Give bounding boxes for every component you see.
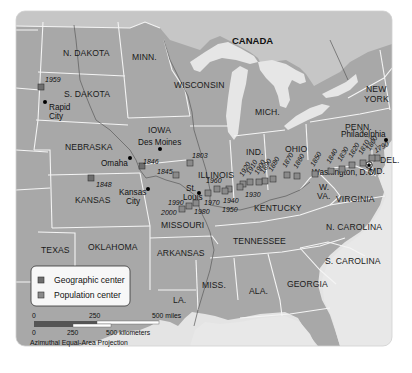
state-label-del: DEL. <box>380 155 400 165</box>
state-label-ind: IND. <box>246 147 264 157</box>
year-1940: 1940 <box>223 197 239 204</box>
state-label-texas: TEXAS <box>41 245 70 255</box>
state-label-sc: S. CAROLINA <box>325 256 381 266</box>
city-label-kansas-city-1: Kansas <box>119 188 146 197</box>
state-label-mo: MISSOURI <box>161 220 204 230</box>
city-dot-rapid-city <box>43 100 47 104</box>
city-label-philadelphia: Philadelphia <box>341 130 386 139</box>
scale-km-500: 500 kilometers <box>106 329 151 336</box>
scale-km-dark <box>34 324 73 327</box>
us-centers-map: CANADA N. DAKOTA S. DAKOTA MINN. WISCONS… <box>0 0 412 373</box>
pop-marker-2000 <box>179 206 185 212</box>
pop-marker-1900 <box>256 179 262 185</box>
scale-km-250: 250 <box>67 329 79 336</box>
state-label-la: LA. <box>173 295 186 305</box>
pop-marker-1845 <box>173 172 179 178</box>
pop-marker-1930 <box>237 184 243 190</box>
pop-marker-1803 <box>187 160 193 166</box>
scale-miles-light <box>97 321 159 324</box>
city-label-rapid-city-1: Rapid <box>49 103 71 112</box>
state-label-nd: N. DAKOTA <box>63 48 110 58</box>
legend-geographic-swatch <box>38 277 44 283</box>
legend: Geographic center Population center <box>31 266 130 306</box>
scale-km-light <box>73 324 111 327</box>
city-dot-omaha <box>128 156 132 160</box>
scale-km-0: 0 <box>32 329 36 336</box>
geo-marker-1959 <box>38 84 44 90</box>
state-label-wva-2: VA. <box>317 191 331 201</box>
pop-marker-1910 <box>247 179 253 185</box>
year-1930: 1930 <box>245 191 261 198</box>
year-1950: 1950 <box>222 206 238 213</box>
geo-marker-1848 <box>88 175 94 181</box>
pop-marker-1830 <box>339 166 345 172</box>
state-label-kansas: KANSAS <box>75 195 111 205</box>
city-label-rapid-city-2: City <box>49 112 64 121</box>
state-label-minn: MINN. <box>132 52 157 62</box>
city-dot-des-moines <box>158 147 162 151</box>
scale-miles-500: 500 miles <box>152 312 182 319</box>
pop-marker-1820 <box>349 162 355 168</box>
pop-marker-1810 <box>360 160 366 166</box>
year-2000: 2000 <box>160 209 177 216</box>
legend-box <box>31 266 130 306</box>
legend-population-swatch <box>38 292 44 298</box>
scale-miles-dark <box>34 321 97 324</box>
state-label-wisc: WISCONSIN <box>174 80 225 90</box>
city-dot-kansas-city <box>146 187 150 191</box>
year-1980: 1980 <box>194 208 210 215</box>
pop-marker-1990 <box>186 203 192 209</box>
legend-population-label: Population center <box>54 290 121 300</box>
year-1959: 1959 <box>45 76 61 83</box>
city-label-des-moines: Des Moines <box>138 138 181 147</box>
pop-marker-1890 <box>262 178 268 184</box>
year-1803: 1803 <box>192 152 208 159</box>
year-1970: 1970 <box>204 199 220 206</box>
state-label-va: VIRGINIA <box>336 194 375 204</box>
pop-marker-1880 <box>270 176 276 182</box>
state-label-okla: OKLAHOMA <box>88 242 138 252</box>
city-label-kansas-city-2: City <box>126 197 141 206</box>
year-1990: 1990 <box>168 199 184 206</box>
pop-marker-1800 <box>369 155 375 161</box>
scale-miles-250: 250 <box>89 312 101 319</box>
pop-marker-1980 <box>193 200 199 206</box>
state-label-iowa: IOWA <box>148 125 171 135</box>
city-label-st-louis-1: St. <box>186 184 196 193</box>
pop-marker-1850 <box>312 171 318 177</box>
year-1848: 1848 <box>96 181 112 188</box>
pop-marker-1870 <box>284 172 290 178</box>
state-label-ny-1: NEW <box>366 84 387 94</box>
country-label-canada: CANADA <box>232 35 273 46</box>
year-1845: 1845 <box>157 168 173 175</box>
state-label-ky: KENTUCKY <box>254 203 302 213</box>
pop-marker-1860 <box>294 173 300 179</box>
pop-marker-1950 <box>222 188 228 194</box>
pop-marker-1840 <box>328 168 334 174</box>
legend-geographic-label: Geographic center <box>54 275 125 285</box>
state-label-ga: GEORGIA <box>287 279 328 289</box>
state-label-ala: ALA. <box>249 286 268 296</box>
year-1960: 1960 <box>206 177 222 184</box>
projection-label: Azimuthal Equal-Area Projection <box>30 339 128 347</box>
state-label-sd: S. DAKOTA <box>64 89 110 99</box>
pop-marker-1960 <box>214 186 220 192</box>
state-label-mich: MICH. <box>255 107 280 117</box>
pop-marker-1970 <box>205 190 211 196</box>
state-label-ark: ARKANSAS <box>157 248 205 258</box>
city-label-omaha: Omaha <box>101 159 128 168</box>
year-1846: 1846 <box>143 158 159 165</box>
state-label-nc: N. CAROLINA <box>326 222 382 232</box>
scale-miles-0: 0 <box>32 312 36 319</box>
state-label-tenn: TENNESSEE <box>233 236 286 246</box>
state-label-ny-2: YORK <box>364 94 389 104</box>
state-label-miss: MISS. <box>202 280 226 290</box>
state-label-neb: NEBRASKA <box>65 142 113 152</box>
